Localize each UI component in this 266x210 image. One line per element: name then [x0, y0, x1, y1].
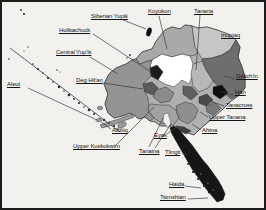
label-deg-hitan[interactable]: Deg Hit'an — [76, 77, 103, 84]
label-tanaina[interactable]: Tanaina — [139, 148, 159, 155]
alaska-language-map-figure: Siberian Yupik Koyukon Tanana Inupiaq Ho… — [0, 0, 266, 210]
leader-tsimshian — [188, 198, 208, 199]
label-tlingit[interactable]: Tlingit — [165, 149, 180, 156]
leader-haida — [185, 186, 201, 188]
label-aleut[interactable]: Aleut — [7, 81, 20, 88]
nunivak-island — [97, 106, 103, 110]
label-eyak[interactable]: Eyak — [154, 132, 167, 139]
aleutian-chain-dots — [32, 63, 119, 130]
label-tanacross[interactable]: Tanacross — [226, 102, 252, 109]
label-alutiiq[interactable]: Alutiiq — [112, 127, 128, 134]
label-holikachuck[interactable]: Holikachuck — [59, 27, 90, 34]
st-lawrence-island — [145, 27, 153, 37]
label-central-yupik[interactable]: Central Yup'ik — [56, 49, 91, 56]
leader-central-yupik — [90, 57, 118, 74]
label-ahtna[interactable]: Ahtna — [202, 127, 217, 134]
region-tlingit-panhandle — [170, 126, 225, 202]
label-tanana[interactable]: Tanana — [194, 8, 213, 15]
label-tsimshian[interactable]: Tsimshian — [160, 194, 186, 201]
label-han[interactable]: Han — [235, 89, 246, 96]
label-gwichin[interactable]: Gwich'in — [236, 73, 258, 80]
label-upper-kuskokwim[interactable]: Upper Kuskokwim — [73, 143, 120, 150]
unimak-island — [96, 118, 103, 123]
leader-aleut — [28, 88, 97, 120]
leader-siberian-yupik — [123, 20, 146, 29]
label-inupiaq[interactable]: Inupiaq — [221, 32, 240, 39]
label-siberian-yupik[interactable]: Siberian Yupik — [91, 13, 128, 20]
label-haida[interactable]: Haida — [169, 181, 184, 188]
label-koyukon[interactable]: Koyukon — [148, 8, 171, 15]
label-upper-tanana[interactable]: Upper Tanana — [209, 114, 245, 121]
